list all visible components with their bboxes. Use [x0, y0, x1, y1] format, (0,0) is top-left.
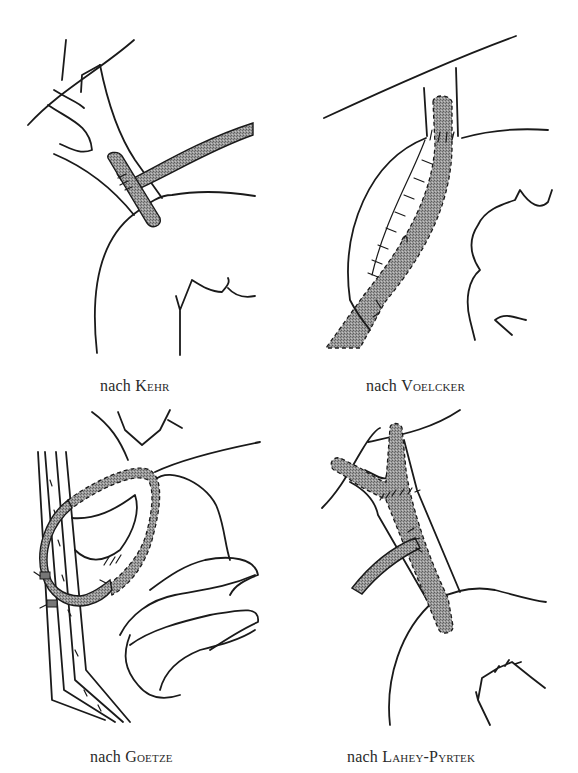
panel-goetze: nach Goetze [0, 400, 290, 773]
caption-author: Voelcker [401, 377, 465, 394]
caption-kehr: nach Kehr [100, 377, 170, 395]
panel-kehr: nach Kehr [0, 30, 290, 400]
panel-voelcker: nach Voelcker [290, 30, 578, 400]
caption-author: Lahey-Pyrtek [382, 748, 475, 765]
caption-lahey-pyrtek: nach Lahey-Pyrtek [347, 748, 475, 766]
panel-lahey-pyrtek: nach Lahey-Pyrtek [290, 400, 578, 773]
voelcker-drainage-illustration [290, 30, 578, 360]
caption-prefix: nach [90, 748, 125, 765]
caption-prefix: nach [100, 377, 135, 394]
caption-author: Goetze [125, 748, 173, 765]
caption-goetze: nach Goetze [90, 748, 173, 766]
caption-author: Kehr [135, 377, 169, 394]
lahey-pyrtek-drainage-illustration [290, 400, 578, 730]
caption-voelcker: nach Voelcker [366, 377, 465, 395]
caption-prefix: nach [366, 377, 401, 394]
kehr-drainage-illustration [0, 30, 290, 360]
caption-prefix: nach [347, 748, 382, 765]
goetze-drainage-illustration [0, 400, 290, 730]
